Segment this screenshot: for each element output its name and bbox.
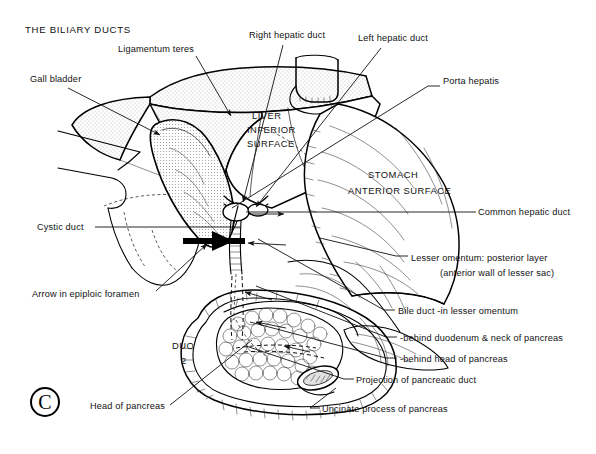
anatomical-diagram-canvas: THE BILIARY DUCTS LIVER INFERIOR SURFACE… [0,0,596,454]
callout-lesser-omentum-anterior: (anterior wall of lesser sac) [440,268,554,278]
organ-label-duodenum: DUO [172,340,194,351]
callout-gall-bladder: Gall bladder [30,74,81,84]
organ-label-duodenum-part: 2 [181,355,187,366]
organ-label-stomach: STOMACH [368,169,418,180]
callout-behind-head-of-pancreas: -behind head of pancreas [400,354,508,364]
organ-label-liver: LIVER [252,110,282,121]
callout-uncinate-process: Uncinate process of pancreas [322,404,448,414]
organ-label-liver-inferior: INFERIOR [247,124,296,135]
callout-common-hepatic-duct: Common hepatic duct [478,207,571,217]
organ-label-stomach-anterior: ANTERIOR SURFACE [348,185,451,196]
callout-right-hepatic-duct: Right hepatic duct [249,30,326,40]
figure-title: THE BILIARY DUCTS [25,24,131,35]
panel-letter: C [38,391,51,413]
callout-behind-duodenum-neck: -behind duodenum & neck of pancreas [400,333,563,343]
biliary-ducts-figure: THE BILIARY DUCTS LIVER INFERIOR SURFACE… [0,0,596,454]
callout-head-of-pancreas: Head of pancreas [90,401,165,411]
callout-arrow-epiploic-foramen: Arrow in epiploic foramen [32,289,139,299]
callout-projection-pancreatic-duct: Projection of pancreatic duct [356,375,477,385]
callout-cystic-duct: Cystic duct [37,222,84,232]
callout-ligamentum-teres: Ligamentum teres [118,44,194,54]
panel-letter-badge: C [31,388,59,416]
callout-porta-hepatis: Porta hepatis [443,76,499,86]
callout-bile-duct-lesser-omentum: Bile duct -in lesser omentum [398,306,518,316]
callout-lesser-omentum-posterior: Lesser omentum: posterior layer [411,253,547,263]
callout-left-hepatic-duct: Left hepatic duct [358,33,428,43]
organ-label-liver-surface: SURFACE [247,138,295,149]
